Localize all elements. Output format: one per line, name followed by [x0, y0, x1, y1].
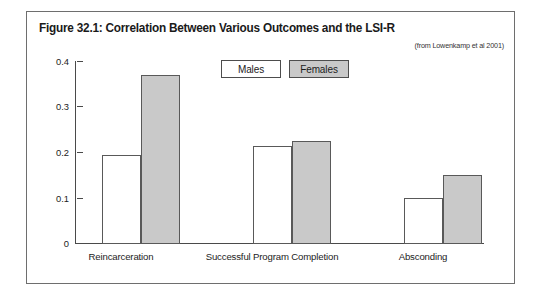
y-tick-mark [77, 152, 83, 153]
bar-females[interactable] [141, 75, 180, 244]
bar-pair [404, 61, 482, 244]
y-tick-mark [77, 61, 83, 62]
bar-females[interactable] [292, 141, 331, 244]
y-tick-mark [77, 106, 83, 107]
bar-females[interactable] [443, 175, 482, 244]
y-axis-label: 0.1 [27, 193, 69, 204]
bar-males[interactable] [253, 146, 292, 244]
y-axis-label: 0.4 [27, 56, 69, 67]
bar-males[interactable] [102, 155, 141, 244]
x-axis-label-absconding: Absconding [313, 251, 533, 262]
y-tick-mark [77, 198, 83, 199]
y-axis-label: 0 [27, 238, 69, 249]
y-axis-label: 0.2 [27, 147, 69, 158]
bar-chart-plot: 0.4 0.3 0.2 0.1 0 Reincarceration Succes… [27, 12, 516, 285]
bar-pair [102, 61, 180, 244]
bar-pair [253, 61, 331, 244]
figure-container: Figure 32.1: Correlation Between Various… [26, 11, 515, 284]
y-axis-label: 0.3 [27, 101, 69, 112]
bar-males[interactable] [404, 198, 443, 244]
